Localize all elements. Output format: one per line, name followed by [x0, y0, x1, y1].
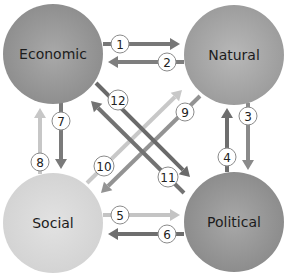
node-social: Social [3, 173, 103, 273]
relationship-diagram: EconomicNaturalSocialPolitical 123456789… [0, 0, 292, 274]
node-label: Natural [208, 47, 260, 63]
node-label: Economic [19, 46, 87, 62]
badge-number: 11 [160, 171, 175, 185]
arrow-number-badge: 5 [111, 206, 129, 224]
badge-number: 10 [96, 160, 111, 174]
badge-number: 9 [181, 106, 189, 120]
badge-number: 5 [116, 209, 124, 223]
arrowhead-icon [108, 56, 118, 68]
badge-number: 6 [163, 228, 171, 242]
arrowhead-icon [55, 159, 67, 169]
arrow-number-badge: 10 [94, 156, 114, 176]
arrow-number-badge: 3 [239, 107, 257, 125]
node-economic: Economic [3, 4, 103, 104]
arrowhead-icon [108, 228, 118, 240]
arrowhead-icon [170, 209, 180, 221]
arrow-number-badge: 9 [176, 103, 194, 121]
arrow-number-badge: 1 [111, 35, 129, 53]
badge-number: 12 [110, 94, 125, 108]
badge-number: 8 [36, 156, 44, 170]
node-label: Political [207, 214, 261, 230]
arrowhead-icon [242, 160, 254, 170]
badge-number: 1 [116, 38, 124, 52]
arrow-number-badge: 11 [158, 167, 178, 187]
arrowhead-icon [221, 108, 233, 118]
badge-number: 2 [163, 56, 171, 70]
arrow-number-badge: 12 [108, 90, 128, 110]
arrowhead-icon [34, 108, 46, 118]
node-political: Political [184, 172, 284, 272]
arrow-number-badge: 6 [158, 225, 176, 243]
arrow-number-badge: 4 [218, 148, 236, 166]
arrow-number-badge: 8 [31, 153, 49, 171]
diagram-canvas: EconomicNaturalSocialPolitical 123456789… [0, 0, 292, 274]
arrow-number-badge: 2 [158, 53, 176, 71]
node-natural: Natural [184, 5, 284, 105]
badge-number: 4 [223, 151, 231, 165]
arrow-number-badge: 7 [52, 112, 70, 130]
badge-number: 3 [244, 110, 252, 124]
arrowhead-icon [170, 38, 180, 50]
badge-number: 7 [57, 115, 65, 129]
node-label: Social [32, 215, 74, 231]
